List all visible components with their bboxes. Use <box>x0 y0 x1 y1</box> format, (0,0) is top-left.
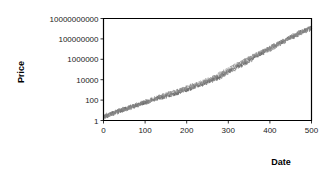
y-tick-label: 10000000000 <box>50 15 99 24</box>
x-tick-label: 500 <box>305 126 319 135</box>
x-tick-label: 0 <box>101 126 106 135</box>
chart-figure: 110010000100000010000000010000000000 010… <box>0 0 325 174</box>
price-vs-date-line-chart: 110010000100000010000000010000000000 010… <box>0 0 325 174</box>
x-tick-label: 200 <box>180 126 194 135</box>
y-tick-label: 1000000 <box>67 55 99 64</box>
x-tick-label: 100 <box>138 126 152 135</box>
y-tick-label: 1 <box>94 117 99 126</box>
y-tick-label: 100 <box>85 96 99 105</box>
y-tick-label: 100000000 <box>58 35 99 44</box>
chart-background <box>0 0 325 174</box>
y-axis-title: Price <box>16 61 26 83</box>
x-tick-label: 400 <box>263 126 277 135</box>
y-tick-label: 10000 <box>76 76 99 85</box>
x-tick-label: 300 <box>222 126 236 135</box>
x-axis-title: Date <box>271 157 291 167</box>
